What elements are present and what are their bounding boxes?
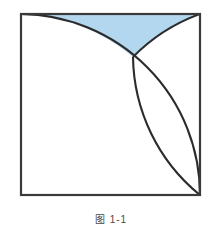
geometry-figure xyxy=(0,0,222,225)
figure-caption: 图 1-1 xyxy=(0,214,222,225)
figure-container: 图 1-1 xyxy=(0,0,222,225)
